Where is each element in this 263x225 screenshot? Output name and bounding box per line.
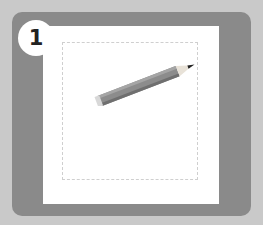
step-number-badge: 1	[18, 20, 54, 56]
pencil-icon	[92, 60, 204, 106]
step-number: 1	[29, 26, 44, 50]
